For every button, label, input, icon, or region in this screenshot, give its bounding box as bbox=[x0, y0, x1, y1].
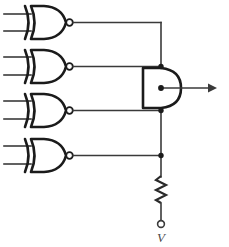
junction-dot-icon bbox=[158, 85, 164, 91]
junction-dot-icon bbox=[158, 64, 163, 69]
gate-1-xor-arc bbox=[25, 6, 29, 39]
gate-2-body bbox=[31, 50, 66, 83]
gate-3-inversion-bubble bbox=[66, 107, 73, 114]
arrow-right-icon bbox=[208, 84, 217, 93]
junction-dot-icon bbox=[158, 108, 163, 113]
supply-label: V bbox=[157, 230, 167, 245]
xnor-gate-icon[interactable] bbox=[4, 139, 161, 172]
gate-4-xor-arc bbox=[25, 139, 29, 172]
gate-3-body bbox=[31, 94, 66, 127]
circuit-canvas: V bbox=[0, 0, 229, 247]
resistor-icon[interactable] bbox=[156, 176, 166, 203]
open-terminal-icon[interactable] bbox=[158, 221, 165, 228]
gate-3-xor-arc bbox=[25, 94, 29, 127]
xnor-gate-icon[interactable] bbox=[4, 6, 161, 39]
junction-dot-icon bbox=[158, 153, 163, 158]
gate-1-inversion-bubble bbox=[66, 19, 73, 26]
gate-2-xor-arc bbox=[25, 50, 29, 83]
gate-1-body bbox=[31, 6, 66, 39]
resistor-zigzag bbox=[156, 176, 166, 203]
xnor-gate-icon[interactable] bbox=[4, 94, 161, 127]
logic-circuit-diagram: V bbox=[0, 0, 229, 247]
gate-4-body bbox=[31, 139, 66, 172]
xnor-gate-icon[interactable] bbox=[4, 50, 161, 83]
gate-4-inversion-bubble bbox=[66, 152, 73, 159]
gate-2-inversion-bubble bbox=[66, 63, 73, 70]
